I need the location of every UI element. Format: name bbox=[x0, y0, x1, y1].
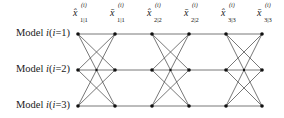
state-node bbox=[224, 68, 228, 72]
state-node bbox=[187, 68, 191, 72]
state-node bbox=[260, 68, 264, 72]
state-node bbox=[76, 32, 80, 36]
model-cond: (i=2) bbox=[49, 63, 70, 74]
estimate-subscript: 1|1 bbox=[80, 16, 88, 23]
crossing-node bbox=[169, 69, 171, 71]
state-node bbox=[113, 32, 117, 36]
estimate-subscript: 2|2 bbox=[154, 16, 162, 23]
model-label-3: Model i(i=3) bbox=[16, 99, 70, 110]
estimate-superscript: (i) bbox=[229, 2, 235, 8]
estimate-subscript: 3|3 bbox=[228, 16, 236, 23]
state-node bbox=[150, 68, 154, 72]
estimate-superscript: (i) bbox=[81, 2, 87, 8]
estimate-symbol: x̄ bbox=[110, 7, 114, 18]
estimate-superscript: (i) bbox=[118, 2, 124, 8]
model-label-2: Model i(i=2) bbox=[16, 63, 70, 74]
state-node bbox=[150, 104, 154, 108]
state-node bbox=[113, 68, 117, 72]
state-node bbox=[76, 104, 80, 108]
state-node bbox=[187, 32, 191, 36]
estimate-subscript: 2|2 bbox=[191, 16, 199, 23]
state-node bbox=[113, 104, 117, 108]
estimate-superscript: (i) bbox=[265, 2, 271, 8]
state-node bbox=[187, 104, 191, 108]
model-cond: (i=3) bbox=[49, 99, 70, 110]
crossing-node bbox=[95, 69, 97, 71]
model-prefix: Model bbox=[16, 63, 46, 74]
model-prefix: Model bbox=[16, 27, 46, 38]
estimate-symbol: x̂ bbox=[73, 7, 77, 18]
crossing-node bbox=[243, 69, 245, 71]
estimate-superscript: (i) bbox=[155, 2, 161, 8]
estimate-symbol: x̂ bbox=[221, 7, 225, 18]
state-node bbox=[224, 32, 228, 36]
estimate-symbol: x̄ bbox=[257, 7, 261, 18]
estimate-subscript: 3|3 bbox=[264, 16, 272, 23]
estimate-superscript: (i) bbox=[192, 2, 198, 8]
estimate-symbol: x̂ bbox=[147, 7, 151, 18]
state-node bbox=[150, 32, 154, 36]
state-node bbox=[76, 68, 80, 72]
model-label-1: Model i(i=1) bbox=[16, 27, 70, 38]
state-node bbox=[260, 104, 264, 108]
state-node bbox=[224, 104, 228, 108]
estimate-subscript: 1|1 bbox=[117, 16, 125, 23]
model-cond: (i=1) bbox=[49, 27, 70, 38]
state-node bbox=[260, 32, 264, 36]
estimate-symbol: x̄ bbox=[184, 7, 188, 18]
model-prefix: Model bbox=[16, 99, 46, 110]
